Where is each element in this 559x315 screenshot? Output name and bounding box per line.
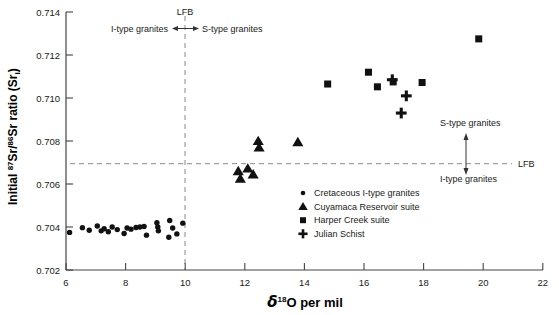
x-tick-label: 20 xyxy=(478,277,489,288)
y-title-ratio: Sr ratio (Sr xyxy=(6,74,20,136)
data-point xyxy=(109,224,114,229)
data-point xyxy=(419,79,426,86)
data-point xyxy=(144,232,149,237)
plot-axes xyxy=(66,12,543,270)
legend-item: Cretaceous I-type granites xyxy=(301,188,420,198)
data-point xyxy=(242,163,253,172)
y-tick-labels: 0.702 0.704 0.706 0.708 0.710 0.712 0.71… xyxy=(36,7,60,276)
chart-legend: Cretaceous I-type granitesCuyamaca Reser… xyxy=(298,188,420,239)
data-point xyxy=(475,35,482,42)
data-point xyxy=(401,90,412,101)
series-plus xyxy=(387,74,412,118)
x-ticks xyxy=(66,263,543,270)
x-axis-title: δ18O per mil xyxy=(267,293,343,311)
series-circle xyxy=(67,218,186,240)
data-point xyxy=(324,81,331,88)
svg-text:δ18O per mil: δ18O per mil xyxy=(267,293,343,311)
legend-label: Julian Schist xyxy=(314,229,365,239)
y-tick-label: 0.704 xyxy=(36,222,60,233)
y-tick-label: 0.706 xyxy=(36,179,60,190)
y-axis-title: Initial 87Sr/86Sr ratio (Sri) xyxy=(6,68,22,205)
data-points-layer xyxy=(67,35,482,240)
data-point xyxy=(396,108,407,119)
data-point xyxy=(292,137,303,146)
data-point xyxy=(67,230,72,235)
data-point xyxy=(365,69,372,76)
y-tick-label: 0.708 xyxy=(36,136,60,147)
x-tick-label: 16 xyxy=(359,277,370,288)
reference-lines xyxy=(70,16,512,270)
series-square xyxy=(324,35,482,90)
delta-symbol: δ xyxy=(267,293,277,311)
y-tick-label: 0.710 xyxy=(36,93,60,104)
scatter-plot-svg: 6 8 10 12 14 16 18 20 22 0.702 0.704 0.7… xyxy=(0,0,559,315)
y-tick-label: 0.712 xyxy=(36,50,60,61)
legend-label: Harper Creek suite xyxy=(314,215,390,225)
right-lfb-annotation: S-type granites I-type granites LFB xyxy=(440,118,535,184)
x-tick-label: 12 xyxy=(240,277,251,288)
data-point xyxy=(128,226,133,231)
series-triangle xyxy=(233,136,304,183)
x-tick-label: 8 xyxy=(123,277,128,288)
right-double-arrow-icon xyxy=(464,133,469,175)
right-s-type-label: S-type granites xyxy=(440,118,501,128)
data-point xyxy=(167,218,172,223)
data-point xyxy=(170,225,175,230)
legend-marker-triangle-icon xyxy=(298,202,307,210)
top-lfb-annotation: LFB I-type granites S-type granites xyxy=(111,7,263,34)
legend-item: Julian Schist xyxy=(298,229,365,239)
data-point xyxy=(121,231,126,236)
top-lfb-label: LFB xyxy=(177,7,194,17)
data-point xyxy=(95,223,100,228)
right-lfb-label: LFB xyxy=(518,159,535,169)
legend-item: Harper Creek suite xyxy=(300,215,390,225)
x-tick-label: 14 xyxy=(299,277,310,288)
data-point xyxy=(233,166,244,175)
legend-label: Cretaceous I-type granites xyxy=(314,188,420,198)
chart-figure: 6 8 10 12 14 16 18 20 22 0.702 0.704 0.7… xyxy=(0,0,559,315)
data-point xyxy=(80,225,85,230)
legend-marker-square-icon xyxy=(300,217,306,223)
svg-text:Initial 87Sr/86Sr ratio (Sri): Initial 87Sr/86Sr ratio (Sri) xyxy=(6,68,22,205)
y-title-mid-sr: Sr/ xyxy=(6,145,20,162)
data-point xyxy=(115,227,120,232)
right-i-type-label: I-type granites xyxy=(440,174,498,184)
data-point xyxy=(106,229,111,234)
data-point xyxy=(180,220,185,225)
y-title-end: ) xyxy=(6,68,20,72)
legend-item: Cuyamaca Reservoir suite xyxy=(298,202,419,212)
data-point xyxy=(141,224,146,229)
top-i-type-label: I-type granites xyxy=(111,24,169,34)
data-point xyxy=(166,235,171,240)
data-point xyxy=(174,231,179,236)
legend-label: Cuyamaca Reservoir suite xyxy=(314,202,420,212)
data-point xyxy=(156,228,161,233)
x-tick-label: 6 xyxy=(63,277,68,288)
x-title-rest: O per mil xyxy=(286,295,342,310)
data-point xyxy=(87,228,92,233)
legend-marker-plus-icon xyxy=(298,229,307,238)
y-tick-label: 0.702 xyxy=(36,265,60,276)
x-tick-label: 10 xyxy=(180,277,191,288)
y-title-pre: Initial xyxy=(6,170,20,205)
legend-marker-circle-icon xyxy=(301,191,306,196)
x-tick-labels: 6 8 10 12 14 16 18 20 22 xyxy=(63,277,548,288)
x-tick-label: 18 xyxy=(418,277,429,288)
top-s-type-label: S-type granites xyxy=(202,24,263,34)
x-tick-label: 22 xyxy=(538,277,549,288)
data-point xyxy=(374,83,381,90)
y-tick-label: 0.714 xyxy=(36,7,60,18)
